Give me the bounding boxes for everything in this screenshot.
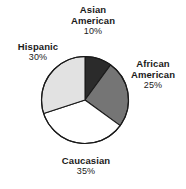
- slice-label-hispanic-name: Hispanic: [0, 41, 76, 52]
- pie-chart: AsianAmerican 10% AfricanAmerican 25% Hi…: [0, 0, 186, 189]
- slice-label-hispanic-value: 30%: [0, 52, 76, 63]
- slice-label-caucasian-value: 35%: [36, 166, 136, 177]
- slice-label-caucasian: Caucasian 35%: [36, 155, 136, 177]
- slice-label-african-american-value: 25%: [120, 80, 186, 91]
- slice-label-african-american: AfricanAmerican 25%: [120, 58, 186, 91]
- slice-label-asian-american: AsianAmerican 10%: [50, 4, 136, 37]
- slice-label-asian-american-name: AsianAmerican: [50, 4, 136, 26]
- slice-label-african-american-name: AfricanAmerican: [120, 58, 186, 80]
- slice-label-hispanic: Hispanic 30%: [0, 41, 76, 63]
- slice-label-asian-american-value: 10%: [50, 26, 136, 37]
- slice-label-caucasian-name: Caucasian: [36, 155, 136, 166]
